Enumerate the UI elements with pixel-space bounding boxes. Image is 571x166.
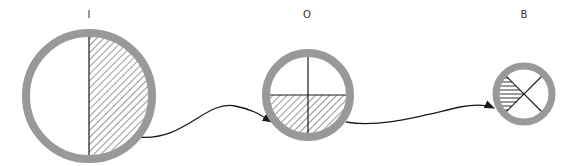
node-label-b: B	[521, 9, 528, 20]
node-i	[26, 33, 153, 159]
edge-i-to-o	[137, 105, 272, 137]
diagram-canvas: I O B	[0, 0, 571, 166]
node-o	[266, 53, 350, 137]
edge-o-to-b	[346, 105, 494, 124]
node-label-i: I	[88, 9, 91, 20]
node-b	[496, 66, 552, 122]
node-label-o: O	[303, 9, 311, 20]
